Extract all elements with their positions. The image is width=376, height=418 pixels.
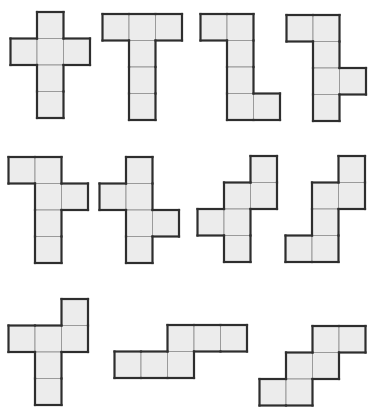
net-square — [129, 94, 156, 121]
net-square — [313, 15, 340, 42]
net-square — [313, 95, 340, 122]
net-square — [312, 209, 339, 236]
net-square — [156, 14, 183, 41]
net-square — [62, 184, 89, 211]
net-square — [224, 236, 251, 263]
net-square — [227, 94, 254, 121]
net-square — [11, 39, 38, 66]
net-square — [224, 209, 251, 236]
net-4 — [287, 15, 367, 121]
net-square — [260, 379, 287, 406]
net-square — [64, 39, 91, 66]
net-square — [9, 157, 36, 184]
net-square — [126, 210, 153, 237]
net-square — [129, 14, 156, 41]
net-square — [286, 353, 313, 380]
net-square — [286, 379, 313, 406]
net-square — [312, 183, 339, 210]
net-square — [35, 157, 62, 184]
net-square — [339, 156, 366, 183]
net-square — [340, 68, 367, 95]
cube-nets-figure — [0, 0, 376, 418]
net-6 — [100, 157, 180, 263]
net-square — [313, 353, 340, 380]
net-square — [227, 67, 254, 94]
net-square — [100, 184, 127, 211]
net-square — [286, 236, 313, 263]
net-9 — [9, 299, 89, 405]
net-square — [198, 209, 225, 236]
net-square — [312, 236, 339, 263]
net-square — [313, 326, 340, 353]
net-square — [254, 94, 281, 121]
net-square — [126, 157, 153, 184]
net-square — [37, 65, 64, 92]
net-11 — [260, 326, 366, 406]
net-square — [339, 183, 366, 210]
net-square — [168, 325, 195, 352]
net-5 — [9, 157, 89, 263]
net-square — [313, 42, 340, 69]
net-square — [129, 67, 156, 94]
net-square — [35, 210, 62, 237]
net-square — [37, 12, 64, 39]
net-square — [62, 299, 89, 326]
net-square — [251, 183, 278, 210]
net-2 — [103, 14, 183, 120]
net-square — [251, 156, 278, 183]
net-square — [35, 184, 62, 211]
net-square — [227, 14, 254, 41]
net-square — [37, 92, 64, 119]
net-square — [153, 210, 180, 237]
net-square — [221, 325, 248, 352]
net-square — [126, 184, 153, 211]
net-square — [168, 352, 195, 379]
net-7 — [198, 156, 278, 262]
net-square — [37, 39, 64, 66]
net-square — [62, 326, 89, 353]
net-square — [35, 326, 62, 353]
net-square — [287, 15, 314, 42]
net-square — [129, 41, 156, 68]
net-square — [35, 379, 62, 406]
net-square — [35, 237, 62, 264]
net-square — [115, 352, 142, 379]
net-square — [35, 352, 62, 379]
net-square — [339, 326, 366, 353]
net-square — [224, 183, 251, 210]
net-8 — [286, 156, 366, 262]
net-1 — [11, 12, 91, 118]
net-square — [313, 68, 340, 95]
net-square — [9, 326, 36, 353]
net-10 — [115, 325, 248, 378]
net-square — [227, 41, 254, 68]
net-square — [201, 14, 228, 41]
net-square — [103, 14, 130, 41]
net-square — [194, 325, 221, 352]
net-square — [126, 237, 153, 264]
net-3 — [201, 14, 281, 120]
net-square — [141, 352, 168, 379]
